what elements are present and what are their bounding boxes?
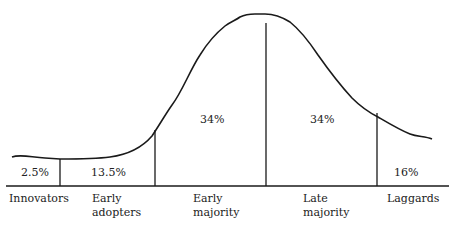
label-innovators: Innovators bbox=[9, 192, 69, 206]
label-early-adopters-line2: adopters bbox=[92, 206, 141, 220]
label-early-majority-line1: Early bbox=[193, 192, 239, 206]
label-early-majority-line2: majority bbox=[193, 206, 239, 220]
percent-early-adopters: 13.5% bbox=[91, 166, 126, 179]
label-late-majority-line2: majority bbox=[303, 206, 349, 220]
label-laggards: Laggards bbox=[387, 192, 439, 206]
percent-innovators: 2.5% bbox=[21, 166, 49, 179]
percent-laggards: 16% bbox=[394, 166, 418, 179]
bell-curve bbox=[12, 14, 432, 159]
label-late-majority: Late majority bbox=[303, 192, 349, 220]
label-early-majority: Early majority bbox=[193, 192, 239, 220]
label-early-adopters: Early adopters bbox=[92, 192, 141, 220]
label-early-adopters-line1: Early bbox=[92, 192, 141, 206]
label-late-majority-line1: Late bbox=[303, 192, 349, 206]
percent-late-majority: 34% bbox=[310, 113, 334, 126]
percent-early-majority: 34% bbox=[200, 113, 224, 126]
